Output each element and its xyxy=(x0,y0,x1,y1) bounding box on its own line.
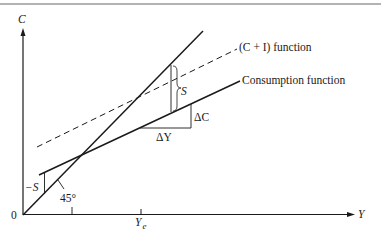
saving-label: S xyxy=(181,85,187,97)
origin-label: 0 xyxy=(11,209,17,221)
x-axis-arrowhead-icon xyxy=(347,212,355,217)
x-axis-label: Y xyxy=(358,208,366,220)
saving-brace-icon xyxy=(173,66,181,111)
equilibrium-income-label: Ye xyxy=(135,216,146,231)
angle-label: 45° xyxy=(60,192,77,204)
delta-c-label: ΔC xyxy=(194,111,209,123)
y-axis-label: C xyxy=(18,13,26,25)
forty-five-degree-line xyxy=(23,31,203,215)
y-axis-arrowhead-icon xyxy=(21,28,26,36)
consumption-function-label: Consumption function xyxy=(242,74,345,87)
c-plus-i-function-label: (C + I) function xyxy=(239,41,312,54)
keynesian-cross-diagram: C Y 0 Ye 45° (C + I) function Consumptio… xyxy=(0,0,381,241)
delta-y-label: ΔY xyxy=(156,131,172,143)
angle-leader-line xyxy=(58,180,64,189)
c-plus-i-function-line xyxy=(37,49,237,147)
dissaving-label: −S xyxy=(25,181,39,193)
